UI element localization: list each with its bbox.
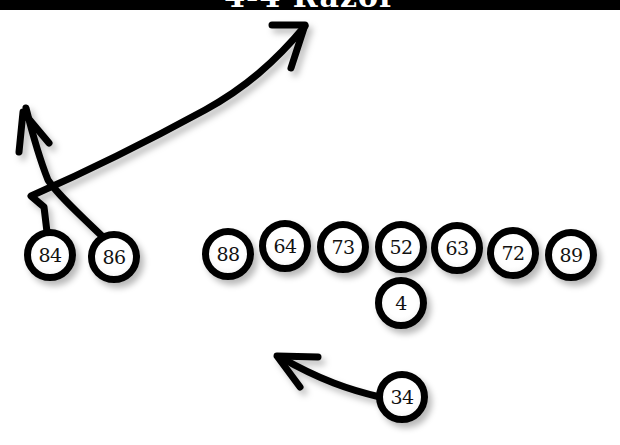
player-number: 72 xyxy=(501,242,524,264)
player-63: 63 xyxy=(431,222,483,274)
player-number: 73 xyxy=(331,236,354,258)
routes-layer xyxy=(0,0,620,445)
player-number: 63 xyxy=(445,237,468,259)
player-34: 34 xyxy=(376,371,428,423)
player-number: 89 xyxy=(559,244,582,266)
player-number: 52 xyxy=(389,236,412,258)
player-88: 88 xyxy=(202,228,254,280)
player-number: 88 xyxy=(216,243,239,265)
player-number: 86 xyxy=(102,246,125,268)
player-number: 64 xyxy=(273,235,296,257)
player-84: 84 xyxy=(24,229,76,281)
player-number: 84 xyxy=(38,244,61,266)
player-number: 34 xyxy=(390,386,413,408)
player-64: 64 xyxy=(259,220,311,272)
player-86: 86 xyxy=(88,231,140,283)
player-number: 4 xyxy=(395,292,407,314)
player-72: 72 xyxy=(487,227,539,279)
player-89: 89 xyxy=(545,229,597,281)
player-52: 52 xyxy=(375,221,427,273)
route-84 xyxy=(31,26,305,232)
player-73: 73 xyxy=(317,221,369,273)
player-4: 4 xyxy=(375,277,427,329)
